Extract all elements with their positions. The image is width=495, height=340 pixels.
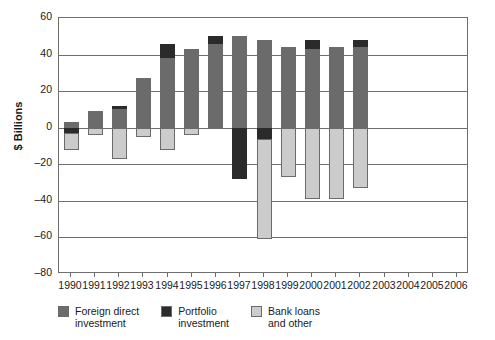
legend-label: Portfolio investment <box>178 305 229 329</box>
x-axis-tick <box>215 273 216 277</box>
x-axis-tick <box>287 273 288 277</box>
legend-label: Foreign direct investment <box>75 305 139 329</box>
chart-container: $ Billions 6040200–20–40–60–80 199019911… <box>0 0 495 340</box>
legend-item: Bank loans and other <box>251 305 320 329</box>
legend-item: Portfolio investment <box>161 305 229 329</box>
legend-label: Bank loans and other <box>268 305 320 329</box>
x-axis-tick <box>263 273 264 277</box>
x-axis-tick <box>335 273 336 277</box>
legend-item: Foreign direct investment <box>58 305 139 329</box>
legend-swatch-icon <box>251 306 262 317</box>
x-axis-tick <box>142 273 143 277</box>
legend-swatch-icon <box>161 306 172 317</box>
x-axis-tick <box>191 273 192 277</box>
x-axis-tick-label: 2006 <box>436 279 476 291</box>
x-axis-tick <box>408 273 409 277</box>
chart-legend: Foreign direct investmentPortfolio inves… <box>58 305 478 329</box>
x-axis-tick <box>167 273 168 277</box>
x-axis-tick <box>94 273 95 277</box>
x-axis-tick <box>359 273 360 277</box>
x-axis-tick-labels: 1990199119921993199419951996199719981999… <box>0 0 495 340</box>
x-axis-tick <box>311 273 312 277</box>
x-axis-tick <box>239 273 240 277</box>
legend-swatch-icon <box>58 306 69 317</box>
x-axis-tick <box>456 273 457 277</box>
x-axis-tick <box>118 273 119 277</box>
x-axis-tick <box>432 273 433 277</box>
x-axis-tick <box>70 273 71 277</box>
x-axis-tick <box>384 273 385 277</box>
